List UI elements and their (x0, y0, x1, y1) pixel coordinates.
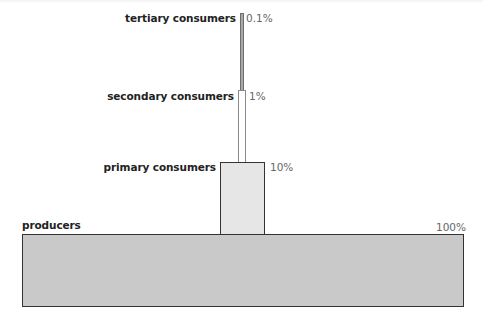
primary-consumers-percent: 10% (270, 161, 293, 173)
producers-percent: 100% (436, 221, 463, 233)
energy-pyramid-diagram: tertiary consumers 0.1% secondary consum… (0, 0, 483, 326)
primary-consumers-bar (220, 162, 265, 235)
primary-consumers-label: primary consumers (100, 161, 216, 173)
secondary-consumers-percent: 1% (249, 90, 266, 102)
secondary-consumers-label: secondary consumers (100, 90, 234, 102)
tertiary-consumers-label: tertiary consumers (100, 12, 236, 24)
cropped-top-edge (0, 0, 483, 3)
secondary-consumers-bar (238, 90, 246, 163)
producers-bar (22, 234, 464, 307)
tertiary-consumers-percent: 0.1% (246, 12, 273, 24)
producers-label: producers (22, 219, 81, 231)
tertiary-consumers-bar (240, 13, 244, 91)
